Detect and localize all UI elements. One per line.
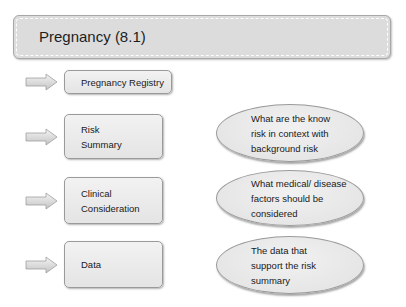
ellipse-line: What medical/ disease: [251, 176, 363, 191]
box-label-line: Risk: [81, 122, 162, 137]
data-box: Data: [64, 241, 163, 288]
clinical-consideration-ellipse: What medical/ disease factors should be …: [216, 170, 364, 226]
ellipse-line: support the risk: [251, 258, 363, 273]
box-label-line: Summary: [81, 137, 162, 152]
ellipse-line: summary: [251, 273, 363, 288]
box-label-line: Consideration: [81, 201, 162, 216]
data-ellipse: The data that support the risk summary: [216, 236, 364, 294]
ellipse-line: risk in context with: [251, 126, 363, 141]
ellipse-line: What are the know: [251, 111, 363, 126]
section-header: Pregnancy (8.1): [13, 15, 391, 59]
clinical-consideration-box: Clinical Consideration: [64, 177, 163, 224]
ellipse-line: considered: [251, 206, 363, 221]
ellipse-line: factors should be: [251, 191, 363, 206]
box-label: Pregnancy Registry: [81, 75, 171, 90]
right-arrow-icon: [25, 192, 58, 210]
right-arrow-icon: [25, 256, 58, 274]
section-title: Pregnancy (8.1): [39, 28, 146, 45]
right-arrow-icon: [25, 73, 58, 91]
risk-summary-ellipse: What are the know risk in context with b…: [216, 104, 364, 162]
ellipse-line: The data that: [251, 243, 363, 258]
pregnancy-registry-box: Pregnancy Registry: [64, 70, 172, 94]
box-label: Data: [81, 257, 162, 272]
risk-summary-box: Risk Summary: [64, 114, 163, 159]
box-label-line: Clinical: [81, 186, 162, 201]
right-arrow-icon: [25, 128, 58, 146]
ellipse-line: background risk: [251, 141, 363, 156]
